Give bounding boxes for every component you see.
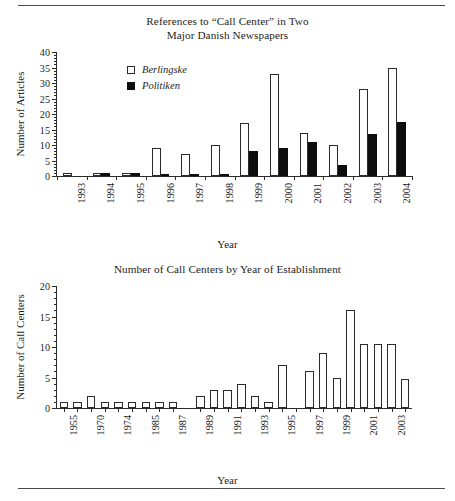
y-axis-tick-minor — [54, 64, 57, 65]
x-axis-tick — [310, 408, 311, 412]
y-axis-tick-minor — [54, 74, 57, 75]
x-axis-tick — [353, 176, 354, 180]
bar-1989 — [196, 396, 204, 408]
y-axis-tick-minor — [54, 86, 57, 87]
y-axis-tick-label: 35 — [40, 62, 50, 73]
bar-berlingske-2003 — [359, 89, 368, 176]
y-axis-tick-minor — [54, 117, 57, 118]
y-axis-tick-minor — [54, 102, 57, 103]
x-axis-tick — [175, 176, 176, 180]
x-axis-tick — [405, 408, 406, 412]
x-axis-tick-label: 2003 — [372, 183, 383, 203]
x-axis-tick-label: 1974 — [122, 415, 133, 435]
y-axis-tick-minor — [54, 157, 57, 158]
bar-berlingske-1996 — [152, 148, 161, 176]
y-axis-tick-label: 15 — [40, 311, 50, 322]
y-axis-tick-minor — [54, 390, 57, 391]
x-axis-tick-label: 1955 — [68, 415, 79, 435]
figure-bottom-title-line1: Number of Call Centers by Year of Establ… — [0, 262, 455, 276]
chart-legend: BerlingskePolitiken — [127, 64, 187, 96]
y-axis-tick-minor — [54, 359, 57, 360]
x-axis-tick — [77, 408, 78, 412]
x-axis-tick-label: 1995 — [286, 415, 297, 435]
x-axis-tick — [105, 408, 106, 412]
x-axis-tick — [118, 408, 119, 412]
legend-swatch-open — [127, 66, 135, 74]
y-axis-tick-minor — [54, 164, 57, 165]
y-axis-tick-minor — [54, 310, 57, 311]
y-axis-tick-major — [52, 52, 57, 53]
bar-1992 — [237, 384, 245, 408]
plot-area-top: 0510152025303540199319941995199619971998… — [0, 46, 455, 266]
bar-1998 — [319, 353, 327, 408]
y-axis-tick-label: 20 — [40, 109, 50, 120]
bar-berlingske-2002 — [329, 145, 338, 176]
y-axis-tick-minor — [54, 108, 57, 109]
bar-1995 — [278, 365, 286, 408]
y-axis-tick-minor — [54, 142, 57, 143]
x-axis-tick — [57, 176, 58, 180]
x-axis-tick-label: 2001 — [312, 183, 323, 203]
bar-1970 — [87, 396, 95, 408]
x-axis-tick-label: 1997 — [194, 183, 205, 203]
bar-politiken-2003 — [368, 134, 377, 176]
figure-call-centers-established: Number of Call Centers by Year of Establ… — [0, 262, 455, 480]
bar-politiken-1994 — [101, 173, 110, 176]
figure-page: References to “Call Center” in Two Major… — [0, 0, 455, 501]
plot-area-bottom: 0510152019551970197419851987198919911993… — [0, 280, 455, 498]
x-axis-tick-label: 2000 — [283, 183, 294, 203]
x-axis-tick-label: 2003 — [396, 415, 407, 435]
y-axis-tick-label: 20 — [40, 281, 50, 292]
y-axis-tick-minor — [54, 170, 57, 171]
bar-politiken-2004 — [397, 122, 406, 176]
bar-politiken-1995 — [131, 173, 140, 176]
y-axis-tick-label: 0 — [45, 171, 50, 182]
y-axis-tick-major — [52, 145, 57, 146]
y-axis-tick-major — [52, 347, 57, 348]
legend-label: Berlingske — [142, 64, 187, 75]
bar-1991 — [223, 390, 231, 408]
x-axis-tick — [323, 408, 324, 412]
y-axis-tick-minor — [54, 80, 57, 81]
y-axis-label: Number of Call Centers — [14, 286, 26, 408]
x-axis-tick-label: 1993 — [76, 183, 87, 203]
x-axis-tick — [241, 408, 242, 412]
x-axis-tick-label: 1991 — [232, 415, 243, 435]
x-axis-tick-label: 2004 — [401, 183, 412, 203]
x-axis-tick — [214, 408, 215, 412]
y-axis-tick-major — [52, 378, 57, 379]
x-axis-label: Year — [0, 474, 455, 486]
y-axis-tick-minor — [54, 298, 57, 299]
bar-1993 — [251, 396, 259, 408]
x-axis-tick-label: 1987 — [177, 415, 188, 435]
page-rule-top — [18, 5, 445, 6]
bar-berlingske-1993 — [63, 173, 72, 176]
legend-item-politiken: Politiken — [127, 80, 187, 91]
x-axis-tick-label: 1998 — [224, 183, 235, 203]
y-axis-tick-minor — [54, 95, 57, 96]
y-axis-tick-minor — [54, 71, 57, 72]
y-axis-tick-label: 25 — [40, 93, 50, 104]
x-axis-tick — [294, 176, 295, 180]
y-axis-tick-minor — [54, 111, 57, 112]
bar-berlingske-1998 — [211, 145, 220, 176]
x-axis-tick-label: 2002 — [342, 183, 353, 203]
x-axis-tick — [173, 408, 174, 412]
x-axis-tick — [337, 408, 338, 412]
bar-berlingske-1994 — [93, 173, 102, 176]
x-axis-tick — [255, 408, 256, 412]
y-axis-tick-minor — [54, 371, 57, 372]
bar-politiken-1998 — [220, 174, 229, 176]
bar-politiken-2002 — [338, 165, 347, 176]
x-axis-tick — [351, 408, 352, 412]
x-axis-tick — [364, 408, 365, 412]
y-axis-tick-label: 5 — [45, 155, 50, 166]
x-axis-tick — [91, 408, 92, 412]
x-axis-tick — [382, 176, 383, 180]
y-axis-tick-major — [52, 317, 57, 318]
x-axis-tick — [296, 408, 297, 412]
bar-2001 — [360, 344, 368, 408]
figure-bottom-title: Number of Call Centers by Year of Establ… — [0, 262, 455, 276]
y-axis-tick-minor — [54, 154, 57, 155]
x-axis-tick-label: 1994 — [105, 183, 116, 203]
